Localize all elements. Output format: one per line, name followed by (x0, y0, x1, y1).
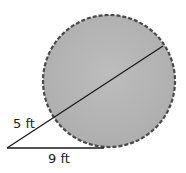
tangent-label: 9 ft (48, 152, 70, 165)
diagram-canvas (0, 0, 186, 173)
secant-external-label: 5 ft (13, 117, 35, 130)
